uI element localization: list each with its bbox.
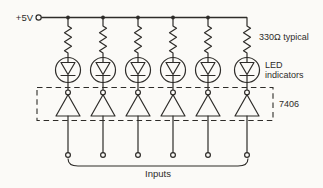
ic-designator-label: 7406 [279,99,299,109]
led-caption-line2: indicators [265,70,304,80]
inputs-caption: Inputs [145,168,171,179]
supply-label: +5V [16,12,34,23]
schematic-canvas: +5V 330Ω typical LED indicators 7406 Inp… [0,0,323,188]
led-caption-line1: LED [265,60,283,70]
supply-terminal [36,15,41,20]
circuit-diagram: +5V 330Ω typical LED indicators 7406 Inp… [0,0,323,188]
inputs-brace [68,159,248,167]
resistor-value-label: 330Ω typical [259,32,309,42]
channel-3 [126,18,151,158]
